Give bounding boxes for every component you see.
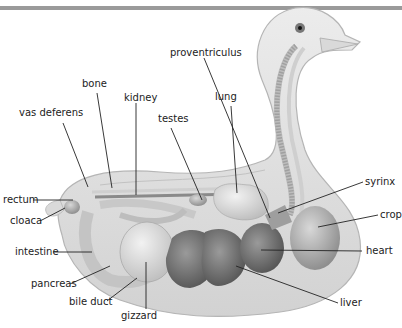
- label-testes: testes: [158, 113, 189, 125]
- label-intestine: intestine: [15, 246, 59, 258]
- cloaca-shape: [64, 200, 80, 214]
- label-kidney: kidney: [124, 92, 157, 104]
- label-vas-deferens: vas deferens: [19, 107, 83, 119]
- label-pancreas: pancreas: [31, 278, 77, 290]
- liver-shape: [166, 229, 246, 288]
- label-proventriculus: proventriculus: [170, 47, 242, 59]
- label-liver: liver: [340, 297, 362, 309]
- heart-shape: [240, 223, 284, 273]
- gizzard-shape: [120, 222, 174, 282]
- testes-shape: [189, 194, 207, 206]
- label-lung: lung: [215, 91, 237, 103]
- label-bile-duct: bile duct: [69, 296, 112, 308]
- label-cloaca: cloaca: [10, 215, 42, 227]
- label-crop: crop: [380, 209, 402, 221]
- label-bone: bone: [82, 78, 107, 90]
- label-gizzard: gizzard: [121, 310, 157, 322]
- label-heart: heart: [366, 245, 393, 257]
- crop-shape: [290, 206, 340, 270]
- label-syrinx: syrinx: [365, 176, 395, 188]
- label-rectum: rectum: [3, 194, 39, 206]
